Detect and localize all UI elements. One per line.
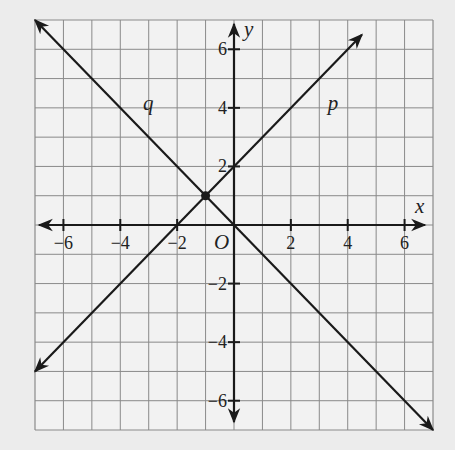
y-tick-label: −2 [208, 274, 227, 294]
y-axis-label: y [242, 17, 254, 41]
intersection-point [201, 191, 210, 200]
line-label-p: p [326, 91, 339, 115]
x-tick-label: 6 [400, 233, 409, 253]
line-label-q: q [143, 91, 154, 115]
x-tick-label: −2 [168, 233, 187, 253]
y-tick-label: 4 [218, 98, 227, 118]
x-tick-label: −6 [54, 233, 73, 253]
y-tick-label: 6 [218, 39, 227, 59]
origin-label: O [214, 230, 229, 254]
y-tick-label: 2 [218, 156, 227, 176]
x-tick-label: 4 [343, 233, 352, 253]
x-axis-label: x [414, 194, 425, 218]
x-tick-label: −4 [111, 233, 130, 253]
y-tick-label: −4 [208, 332, 227, 352]
y-tick-label: −6 [208, 391, 227, 411]
x-tick-label: 2 [286, 233, 295, 253]
coordinate-plane: −6−4−2246642−2−4−6yxOpq [0, 0, 455, 450]
